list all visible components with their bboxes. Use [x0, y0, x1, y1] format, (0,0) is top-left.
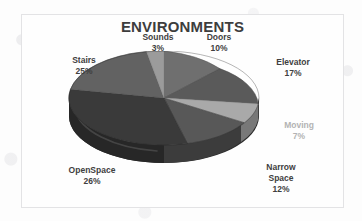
slice-label-moving: Moving 7%	[272, 120, 326, 142]
slice-label-elevator: Elevator 17%	[262, 57, 324, 79]
slice-label-stairs: Stairs 25%	[58, 55, 110, 77]
slice-label-doors-percent: 10%	[194, 43, 244, 54]
slice-label-elevator-name: Elevator	[276, 57, 310, 67]
slice-label-sounds-percent: 3%	[132, 43, 184, 54]
slice-label-stairs-percent: 25%	[58, 66, 110, 77]
slice-label-stairs-name: Stairs	[72, 55, 96, 65]
slice-label-sounds: Sounds 3%	[132, 32, 184, 54]
slice-label-doors: Doors 10%	[194, 32, 244, 54]
slice-label-narrowspace: Narrow Space 12%	[252, 162, 310, 195]
slice-label-moving-percent: 7%	[272, 131, 326, 142]
slice-label-openspace-percent: 26%	[54, 176, 130, 187]
slice-label-narrowspace-name-line1: Narrow	[266, 162, 295, 172]
slice-label-narrowspace-percent: 12%	[252, 184, 310, 195]
chart-frame: ENVIRONMENTS	[21, 14, 344, 208]
slice-label-openspace: OpenSpace 26%	[54, 165, 130, 187]
slice-label-narrowspace-name-line2: Space	[252, 173, 310, 184]
pie-chart: Sounds 3% Doors 10% Elevator 17% Moving …	[22, 15, 345, 209]
slice-label-elevator-percent: 17%	[262, 68, 324, 79]
slice-label-openspace-name: OpenSpace	[69, 165, 116, 175]
slice-label-doors-name: Doors	[207, 32, 232, 42]
slice-label-sounds-name: Sounds	[142, 32, 173, 42]
slice-label-moving-name: Moving	[284, 120, 314, 130]
